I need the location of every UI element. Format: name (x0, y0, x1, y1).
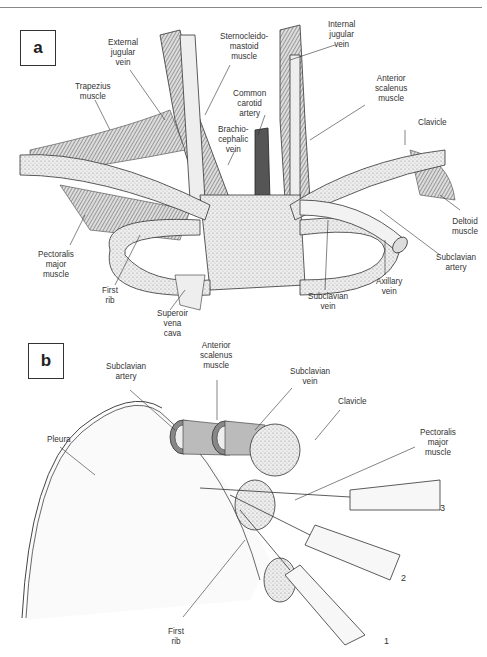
panel-b-label: b (28, 343, 64, 379)
label-first-rib-b: First rib (168, 627, 184, 647)
label-anterior-scalenus-b: Anterior scalenus muscle (200, 341, 232, 371)
label-subclavian-artery-a: Subclavian artery (436, 253, 476, 273)
needle-number-3: 3 (440, 503, 445, 513)
label-trapezius: Trapezius muscle (75, 82, 111, 102)
label-superior-vena-cava: Superoir vena cava (157, 309, 188, 339)
needle-number-2: 2 (401, 573, 406, 583)
label-pleura: Pleura (47, 435, 71, 445)
label-pectoralis-b: Pectoralis major muscle (420, 428, 456, 458)
label-axillary-vein: Axillary vein (376, 277, 402, 297)
label-clavicle-b: Clavicle (338, 397, 367, 407)
label-subclavian-artery-b: Subclavian artery (106, 362, 146, 382)
label-brachiocephalic-vein: Brachio- cephalic vein (218, 125, 249, 155)
label-subclavian-vein-a: Subclavian vein (308, 292, 348, 312)
label-clavicle-a: Clavicle (418, 118, 447, 128)
label-external-jugular-vein: External jugular vein (108, 38, 138, 68)
needle-number-1: 1 (384, 636, 389, 646)
label-internal-jugular-vein: Internal jugular vein (328, 20, 355, 50)
label-anterior-scalenus-a: Anterior scalenus muscle (375, 74, 407, 104)
label-common-carotid: Common carotid artery (233, 89, 266, 119)
label-sternocleidomastoid: Sternocleido- mastoid muscle (220, 32, 268, 62)
label-first-rib-a: First rib (102, 286, 118, 306)
label-subclavian-vein-b: Subclavian vein (290, 367, 330, 387)
panel-a-label: a (20, 30, 56, 66)
label-deltoid: Deltoid muscle (452, 217, 478, 237)
label-pectoralis-a: Pectoralis major muscle (38, 250, 74, 280)
